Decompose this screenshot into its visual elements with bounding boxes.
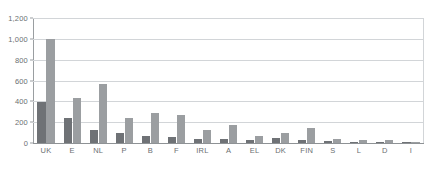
y-tick-label: 0 [24,139,28,148]
bar [281,133,289,143]
bar [220,139,228,143]
x-axis-tick-labels: UKENLPBFIRLAELDKFINSLDI [33,146,424,164]
bar-group [90,18,107,143]
y-tick-label: 1,000 [8,34,28,43]
x-tick-label: D [382,146,388,155]
y-tick-label: 800 [15,55,28,64]
bar-chart: 02004006008001,0001,200 UKENLPBFIRLAELDK… [0,0,448,177]
x-tick-label: A [226,146,231,155]
bar [255,136,263,143]
x-tick-label: S [330,146,335,155]
bar [376,142,384,143]
bar-group [116,18,133,143]
bar [229,125,237,143]
bar-group [246,18,263,143]
bar [385,140,393,143]
x-tick-label: E [69,146,74,155]
bar [142,136,150,143]
bar [64,118,72,143]
bar [203,130,211,143]
bar-group [402,18,419,143]
x-tick-label: B [148,146,153,155]
x-tick-label: UK [41,146,52,155]
bar [125,118,133,143]
bar [116,133,124,143]
bar [411,142,419,143]
bar [73,98,81,143]
bar-group [376,18,393,143]
bar [37,102,45,143]
x-tick-label: DK [275,146,286,155]
bar-group [37,18,54,143]
y-tick-label: 1,200 [8,14,28,23]
bar [151,113,159,143]
y-tick-label: 200 [15,118,28,127]
bar-group [298,18,315,143]
bar [177,115,185,143]
bar [46,39,54,143]
x-tick-label: P [122,146,127,155]
x-tick-label: NL [93,146,103,155]
bar [99,84,107,143]
x-tick-label: L [357,146,361,155]
x-tick-label: EL [250,146,260,155]
bar-group [142,18,159,143]
bar-group [220,18,237,143]
x-tick-label: I [410,146,412,155]
y-axis-tick-labels: 02004006008001,0001,200 [0,0,30,177]
y-tick-label: 600 [15,76,28,85]
bar-series-container [33,18,424,143]
gridline-0 [33,143,424,144]
bar-group [324,18,341,143]
x-tick-label: IRL [196,146,208,155]
y-tick-label: 400 [15,97,28,106]
bar-group [272,18,289,143]
bar [272,138,280,143]
bar-group [194,18,211,143]
bar [168,137,176,143]
bar [350,142,358,143]
plot-area [33,18,424,143]
x-tick-label: FIN [300,146,313,155]
bar [359,140,367,143]
bar [90,130,98,143]
bar-group [168,18,185,143]
bar [402,142,410,143]
x-tick-label: F [174,146,179,155]
bar [333,139,341,143]
bar [246,140,254,143]
bar [194,139,202,143]
bar [307,128,315,143]
bar [324,141,332,143]
bar [298,140,306,143]
bar-group [350,18,367,143]
bar-group [64,18,81,143]
